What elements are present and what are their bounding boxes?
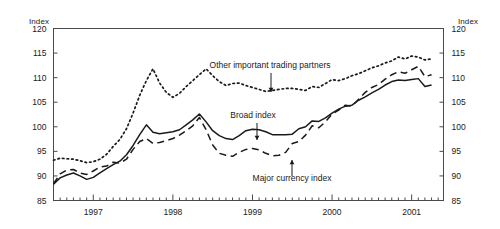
x-tick-label: 2001 — [402, 207, 421, 217]
y-tick-label-left: 105 — [32, 97, 46, 107]
annotation-arrowhead-major-currency-index — [290, 160, 295, 164]
x-tick-label: 1997 — [84, 207, 103, 217]
y-tick-label-left: 115 — [33, 48, 47, 58]
line-chart-plot: 859095100105110115120 859095100105110115… — [0, 0, 500, 229]
y-tick-label-left: 120 — [32, 24, 46, 34]
annotation-label-broad-index: Broad index — [230, 110, 276, 120]
annotation-label-other-important-trading-partners: Other important trading partners — [210, 60, 331, 70]
y-tick-label-right: 110 — [452, 73, 466, 83]
y-tick-label-right: 95 — [452, 146, 462, 156]
x-tick-label: 1998 — [163, 207, 182, 217]
y-tick-label-right: 120 — [452, 24, 466, 34]
y-tick-label-right: 115 — [452, 48, 466, 58]
y-tick-label-left: 100 — [32, 122, 46, 132]
x-tick-label: 2000 — [323, 207, 342, 217]
y-tick-label-right: 85 — [452, 196, 462, 206]
chart-figure: Index Index 859095100105110115120 859095… — [0, 0, 500, 229]
series-line — [54, 79, 432, 185]
y-tick-label-left: 90 — [37, 171, 47, 181]
y-tick-label-right: 90 — [452, 171, 462, 181]
annotation-arrowhead-broad-index — [255, 136, 260, 140]
y-tick-label-left: 85 — [37, 196, 47, 206]
y-tick-label-right: 105 — [452, 97, 466, 107]
y-tick-label-left: 95 — [37, 146, 47, 156]
x-tick-label: 1999 — [243, 207, 262, 217]
x-axis-ticks: 19971998199920002001 — [54, 195, 439, 217]
y-tick-label-left: 110 — [33, 73, 47, 83]
data-series-group — [54, 56, 432, 184]
y-tick-label-right: 100 — [452, 122, 466, 132]
